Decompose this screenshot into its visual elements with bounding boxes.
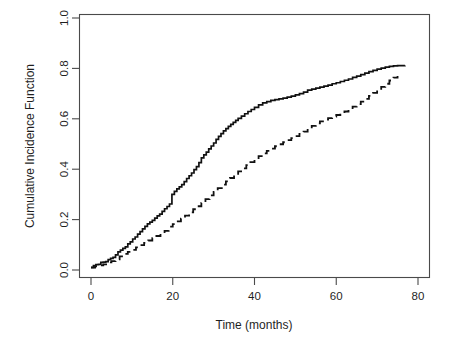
y-tick-label: 0.6 xyxy=(58,111,70,127)
x-tick-label: 20 xyxy=(166,290,179,302)
data-series-layer xyxy=(91,65,405,267)
y-tick-label: 1.0 xyxy=(58,10,70,26)
x-tick-label: 40 xyxy=(248,290,261,302)
y-axis-title: Cumulative Incidence Function xyxy=(23,64,37,228)
y-axis-ticks: 0.00.20.40.60.81.0 xyxy=(58,10,80,278)
x-tick-label: 60 xyxy=(330,290,343,302)
y-tick-label: 0.0 xyxy=(58,262,70,278)
x-axis-ticks: 020406080 xyxy=(88,278,425,303)
series-dashed-curve xyxy=(91,76,398,268)
y-tick-label: 0.8 xyxy=(58,60,70,76)
cumulative-incidence-plot: 020406080 0.00.20.40.60.81.0 Time (month… xyxy=(0,0,457,344)
y-tick-label: 0.2 xyxy=(58,212,70,228)
figure-canvas: 020406080 0.00.20.40.60.81.0 Time (month… xyxy=(0,0,457,344)
x-tick-label: 0 xyxy=(88,290,94,302)
plot-frame xyxy=(80,15,430,278)
y-tick-label: 0.4 xyxy=(58,161,70,178)
series-solid-curve xyxy=(91,65,405,267)
x-axis-title: Time (months) xyxy=(216,318,293,332)
x-tick-label: 80 xyxy=(412,290,425,302)
